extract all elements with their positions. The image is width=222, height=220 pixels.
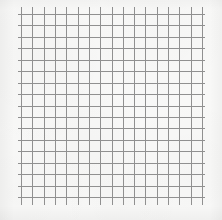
grid-paper-image xyxy=(0,0,222,220)
grid-lines-layer xyxy=(0,0,222,220)
horizontal-grid-lines xyxy=(18,15,205,198)
grid-group xyxy=(18,7,205,205)
